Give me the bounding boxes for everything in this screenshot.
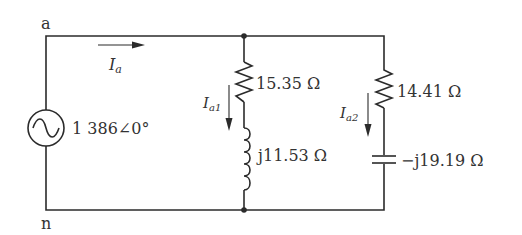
current-arrow-ia1-icon [226, 85, 233, 131]
current-label-ia1: Ia1 [202, 94, 221, 113]
node-label-n: n [41, 214, 51, 233]
capacitor-icon [372, 156, 396, 163]
circuit-diagram: a n 1 386∠0° Ia Ia1 Ia2 15.35 Ω j11.53 Ω… [0, 0, 522, 235]
resistor-1-icon [236, 62, 252, 102]
junction-bottom [241, 207, 247, 213]
inductor-value: j11.53 Ω [256, 146, 327, 165]
current-label-ia2: Ia2 [339, 104, 358, 123]
capacitor-value: −j19.19 Ω [401, 151, 484, 170]
current-label-ia: Ia [108, 55, 122, 76]
resistor-1-value: 15.35 Ω [256, 74, 320, 93]
source-value-label: 1 386∠0° [72, 119, 149, 138]
current-arrow-ia2-icon [365, 93, 372, 137]
current-arrow-ia-icon [98, 42, 145, 49]
resistor-2-icon [376, 64, 392, 108]
top-wire [46, 36, 384, 110]
ac-source-icon [28, 110, 64, 146]
node-label-a: a [41, 14, 51, 33]
resistor-2-value: 14.41 Ω [397, 82, 461, 101]
inductor-icon [244, 128, 250, 190]
junction-top [241, 33, 247, 39]
bottom-wire [46, 146, 384, 210]
